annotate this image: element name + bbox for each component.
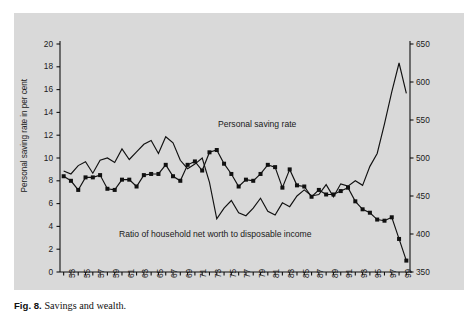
series-0-marker (288, 167, 292, 171)
series-0-marker (215, 148, 219, 152)
series-0-marker (295, 183, 299, 187)
x-tick-69: 69 (184, 258, 194, 278)
series-0-marker (266, 163, 270, 167)
left-tick-18: 18 (33, 61, 53, 71)
right-tick-500: 500 (416, 153, 440, 163)
left-tick-6: 6 (33, 198, 53, 208)
figure-caption-label: Fig. 8. (14, 300, 42, 311)
series-0-marker (84, 175, 88, 179)
series-0-marker (113, 188, 117, 192)
x-tick-99: 99 (403, 258, 413, 278)
x-tick-89: 89 (330, 258, 340, 278)
x-tick-71: 71 (198, 258, 208, 278)
series-0-marker (229, 172, 233, 176)
series-0-marker (353, 199, 357, 203)
x-tick-67: 67 (169, 258, 179, 278)
series-0-marker (91, 175, 95, 179)
x-tick-53: 53 (67, 258, 77, 278)
series-0-marker (149, 172, 153, 176)
series-0-marker (222, 162, 226, 166)
left-tick-10: 10 (33, 153, 53, 163)
right-tick-400: 400 (416, 229, 440, 239)
series-0-marker (178, 179, 182, 183)
left-tick-0: 0 (33, 267, 53, 277)
series-0-marker (76, 188, 80, 192)
right-tick-650: 650 (416, 39, 440, 49)
series-0-marker (302, 185, 306, 189)
x-tick-59: 59 (111, 258, 121, 278)
x-tick-85: 85 (301, 258, 311, 278)
x-tick-57: 57 (96, 258, 106, 278)
figure-caption: Fig. 8. Savings and wealth. (14, 300, 126, 311)
series-0-marker (317, 188, 321, 192)
series-0-marker (237, 185, 241, 189)
series-0-marker (280, 186, 284, 190)
x-tick-65: 65 (155, 258, 165, 278)
right-tick-350: 350 (416, 267, 440, 277)
x-tick-75: 75 (228, 258, 238, 278)
x-tick-55: 55 (82, 258, 92, 278)
series-0-marker (62, 174, 66, 178)
x-tick-81: 81 (271, 258, 281, 278)
x-tick-97: 97 (388, 258, 398, 278)
left-tick-16: 16 (33, 84, 53, 94)
series-0-marker (135, 185, 139, 189)
series-0-marker (259, 172, 263, 176)
series-0-marker (120, 178, 124, 182)
plot-area (14, 13, 464, 290)
series-0-marker (368, 211, 372, 215)
chart-panel: Personal saving rate in per cent Househo… (14, 13, 464, 290)
series-0-marker (127, 178, 131, 182)
left-tick-4: 4 (33, 221, 53, 231)
right-tick-600: 600 (416, 77, 440, 87)
series-0-marker (171, 174, 175, 178)
series-0-marker (156, 172, 160, 176)
series-0-marker (69, 179, 73, 183)
series-0-marker (251, 179, 255, 183)
right-tick-550: 550 (416, 115, 440, 125)
figure-caption-text: Savings and wealth. (44, 300, 126, 311)
series-0-marker (142, 173, 146, 177)
x-tick-61: 61 (126, 258, 136, 278)
series-line-1 (64, 63, 407, 219)
x-tick-83: 83 (286, 258, 296, 278)
x-tick-93: 93 (359, 258, 369, 278)
x-tick-79: 79 (257, 258, 267, 278)
x-tick-63: 63 (140, 258, 150, 278)
series-0-marker (375, 218, 379, 222)
left-tick-14: 14 (33, 107, 53, 117)
left-tick-8: 8 (33, 175, 53, 185)
series-0-marker (164, 163, 168, 167)
series-0-marker (361, 207, 365, 211)
left-tick-12: 12 (33, 130, 53, 140)
series-0-marker (324, 192, 328, 196)
series-line-0 (64, 150, 407, 261)
right-tick-450: 450 (416, 191, 440, 201)
series-0-marker (207, 150, 211, 154)
left-tick-2: 2 (33, 244, 53, 254)
left-tick-20: 20 (33, 39, 53, 49)
x-tick-73: 73 (213, 258, 223, 278)
series-0-marker (98, 173, 102, 177)
x-tick-91: 91 (344, 258, 354, 278)
x-tick-87: 87 (315, 258, 325, 278)
series-0-marker (382, 219, 386, 223)
series-0-marker (397, 237, 401, 241)
x-tick-95: 95 (373, 258, 383, 278)
series-0-marker (200, 169, 204, 173)
series-0-marker (105, 187, 109, 191)
figure-root: Personal saving rate in per cent Househo… (0, 0, 476, 331)
x-tick-77: 77 (242, 258, 252, 278)
series-0-marker (339, 189, 343, 193)
series-0-marker (390, 215, 394, 219)
series-0-marker (244, 178, 248, 182)
series-0-marker (273, 165, 277, 169)
